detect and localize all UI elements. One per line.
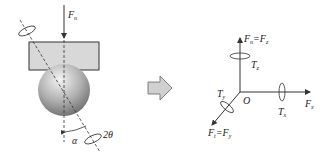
label-fz: Fn=Fz (244, 34, 268, 45)
label-fy: Ft=Fy (208, 128, 231, 139)
sphere-contact-figure (17, 5, 102, 152)
label-ty: Ty (217, 89, 225, 100)
coordinate-system (212, 38, 310, 125)
label-fx: Fx (305, 99, 314, 110)
label-fn: Fn (68, 10, 77, 21)
rotation-icon-top (17, 24, 36, 38)
label-2theta: 2θ (103, 130, 113, 140)
label-tz: Tz (251, 60, 259, 71)
label-origin: O (243, 96, 250, 106)
label-tx: Tx (278, 107, 286, 118)
right-arrow-icon (148, 76, 172, 100)
diagram-canvas (0, 0, 329, 154)
rotation-icon-bottom (83, 132, 102, 146)
label-alpha: α (72, 136, 77, 146)
